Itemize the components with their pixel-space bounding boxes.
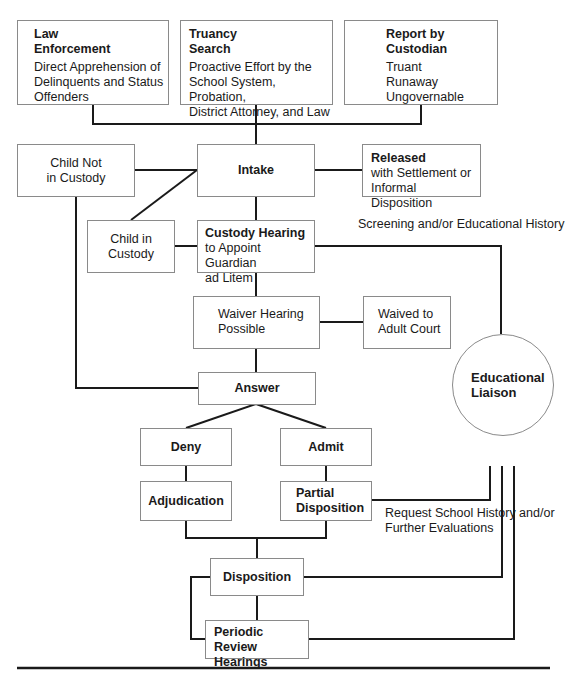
- partial-disposition-line-1: Partial: [296, 486, 371, 501]
- child-in-custody-line-1: Child in: [110, 232, 152, 247]
- request-label-line-2: History and/or: [477, 506, 555, 520]
- disposition-box: Disposition: [210, 558, 304, 596]
- screening-label-line-1: Screening and/or: [358, 217, 453, 231]
- released-desc-2: Informal Disposition: [371, 181, 480, 211]
- waiver-hearing-line-2: Possible: [218, 322, 319, 337]
- child-not-in-custody-box: Child Not in Custody: [17, 144, 135, 197]
- law-enforcement-desc-1: Direct Apprehension of: [34, 60, 168, 75]
- released-title: Released: [371, 151, 480, 166]
- disposition-label: Disposition: [223, 570, 291, 585]
- educational-liaison-circle: Educational Liaison: [452, 334, 554, 436]
- child-not-in-custody-line-1: Child Not: [50, 156, 101, 171]
- law-enforcement-title-2: Enforcement: [34, 42, 168, 57]
- law-enforcement-desc-2: Delinquents and Status: [34, 75, 168, 90]
- periodic-review-line-2: Hearings: [214, 655, 308, 670]
- deny-box: Deny: [140, 428, 232, 466]
- partial-disposition-box: Partial Disposition: [280, 481, 372, 521]
- adjudication-box: Adjudication: [140, 481, 232, 521]
- custody-hearing-desc-1: to Appoint Guardian: [205, 241, 314, 271]
- custodian-desc-2: Runaway: [386, 75, 497, 90]
- law-enforcement-desc-3: Offenders: [34, 90, 168, 105]
- truancy-search-box: Truancy Search Proactive Effort by the S…: [180, 20, 333, 105]
- law-enforcement-box: Law Enforcement Direct Apprehension of D…: [17, 20, 169, 105]
- liaison-line-2: Liaison: [471, 385, 517, 400]
- periodic-review-box: Periodic Review Hearings: [205, 620, 309, 659]
- waiver-hearing-line-1: Waiver Hearing: [218, 307, 319, 322]
- custody-hearing-title: Custody Hearing: [205, 226, 314, 241]
- intake-box: Intake: [197, 144, 315, 197]
- law-enforcement-title-1: Law: [34, 27, 168, 42]
- periodic-review-line-1: Periodic Review: [214, 625, 308, 655]
- waived-to-adult-court-box: Waived to Adult Court: [363, 296, 451, 349]
- child-not-in-custody-line-2: in Custody: [46, 171, 105, 186]
- truancy-desc-2: School System, Probation,: [189, 75, 332, 105]
- answer-box: Answer: [198, 372, 316, 405]
- admit-label: Admit: [308, 440, 343, 455]
- released-box: Released with Settlement or Informal Dis…: [362, 144, 481, 197]
- truancy-desc-1: Proactive Effort by the: [189, 60, 332, 75]
- partial-disposition-line-2: Disposition: [296, 501, 371, 516]
- child-in-custody-line-2: Custody: [108, 247, 154, 262]
- custodian-desc-1: Truant: [386, 60, 497, 75]
- custodian-desc-3: Ungovernable: [386, 90, 497, 105]
- custody-hearing-desc-2: ad Litem: [205, 271, 314, 286]
- child-in-custody-box: Child in Custody: [87, 220, 175, 273]
- adjudication-label: Adjudication: [148, 494, 224, 509]
- liaison-line-1: Educational: [471, 370, 545, 385]
- intake-label: Intake: [238, 163, 274, 178]
- screening-label-line-2: Educational History: [457, 217, 565, 231]
- answer-label: Answer: [234, 381, 279, 396]
- request-label: Request School History and/or Further Ev…: [385, 506, 567, 536]
- released-desc-1: with Settlement or: [371, 166, 480, 181]
- truancy-title-1: Truancy: [189, 27, 332, 42]
- custody-hearing-box: Custody Hearing to Appoint Guardian ad L…: [197, 220, 315, 273]
- custodian-title-2: Custodian: [386, 42, 497, 57]
- custodian-title-1: Report by: [386, 27, 497, 42]
- request-label-line-3: Further Evaluations: [385, 521, 493, 535]
- admit-box: Admit: [280, 428, 372, 466]
- deny-label: Deny: [171, 440, 202, 455]
- waiver-hearing-box: Waiver Hearing Possible: [193, 296, 320, 349]
- truancy-title-2: Search: [189, 42, 332, 57]
- request-label-line-1: Request School: [385, 506, 473, 520]
- report-by-custodian-box: Report by Custodian Truant Runaway Ungov…: [344, 20, 498, 105]
- screening-label: Screening and/or Educational History: [358, 217, 564, 232]
- waived-line-2: Adult Court: [378, 322, 450, 337]
- waived-line-1: Waived to: [378, 307, 450, 322]
- truancy-desc-3: District Attorney, and Law: [189, 105, 332, 120]
